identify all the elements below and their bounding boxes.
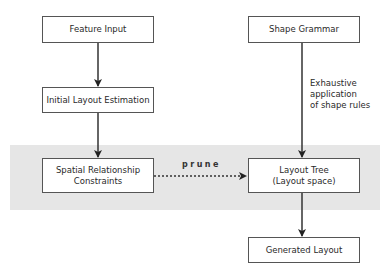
node-generated-layout: Generated Layout <box>248 237 360 263</box>
node-label-line2: Constraints <box>74 176 123 187</box>
edge-label-exhaustive: Exhaustive application of shape rules <box>310 78 370 111</box>
edge-label-line3: of shape rules <box>310 100 370 111</box>
node-label: Generated Layout <box>266 245 343 256</box>
node-label: Initial Layout Estimation <box>46 95 149 106</box>
edge-label-prune: prune <box>182 160 221 169</box>
node-shape-grammar: Shape Grammar <box>248 16 360 43</box>
node-feature-input: Feature Input <box>42 16 154 43</box>
node-label-line1: Layout Tree <box>279 165 328 176</box>
node-label: Feature Input <box>70 24 127 35</box>
node-label-line1: Spatial Relationship <box>56 165 140 176</box>
edge-label-line2: application <box>310 89 370 100</box>
node-spatial-relationship-constraints: Spatial Relationship Constraints <box>42 158 154 193</box>
node-label-line2: (Layout space) <box>272 176 335 187</box>
edge-label-line1: Exhaustive <box>310 78 370 89</box>
node-layout-tree: Layout Tree (Layout space) <box>248 158 360 193</box>
node-label: Shape Grammar <box>269 24 339 35</box>
node-initial-layout-estimation: Initial Layout Estimation <box>42 87 154 113</box>
